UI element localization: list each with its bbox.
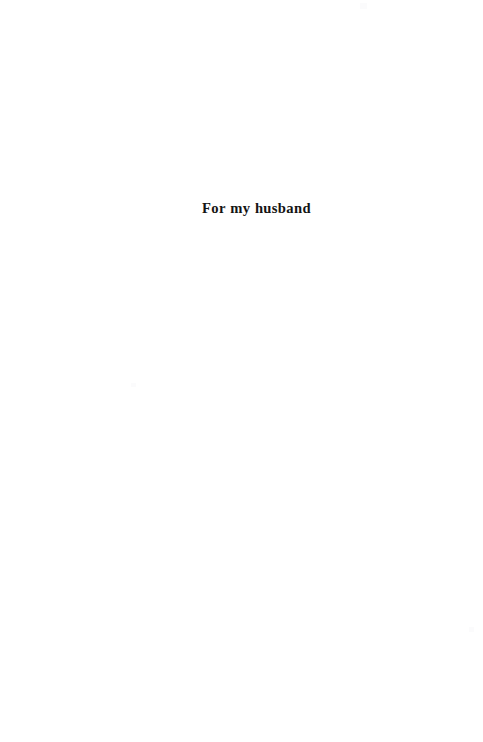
dedication-text: For my husband [202,200,311,217]
scan-speckle-artifact [360,3,367,9]
dedication-block: For my husband [0,199,483,217]
scan-speckle-artifact [469,627,474,632]
scanned-page: For my husband [0,0,483,742]
scan-speckle-artifact [131,383,136,387]
